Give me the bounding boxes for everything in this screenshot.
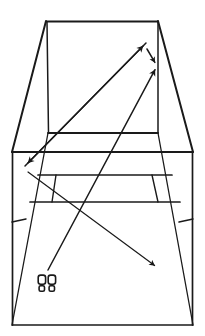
wall-tick-marks [12,219,193,222]
arrow-from-footprints-up-right [48,70,155,270]
ceiling-left-receding-edge [12,21,46,152]
arrow-down-right-short-link [147,49,155,62]
arrow-down-left-to-near-wall [28,43,146,163]
left-foot-sole [38,275,45,284]
drawing-canvas: Perspective line drawing of room interio… [0,0,205,336]
right-foot-sole [48,275,55,284]
perspective-line-drawing [0,0,205,336]
footprints-marker [38,275,55,291]
ceiling-right-receding-edge [158,21,193,152]
step-riser-right [152,175,158,202]
floor-right-receding-edge [158,133,193,325]
arrow-down-right-to-floor [28,172,155,266]
annotation-arrows [25,43,155,270]
floor-receding-edges [12,133,193,325]
left-foot-heel [39,286,44,291]
step-riser-left [52,175,56,202]
left-wall-tick [12,219,26,222]
right-foot-heel [49,286,54,291]
right-wall-tick [179,219,193,222]
back-wall-rectangle [47,22,159,134]
floor-step-structure [30,175,180,202]
back-wall-left-edge [47,22,49,133]
